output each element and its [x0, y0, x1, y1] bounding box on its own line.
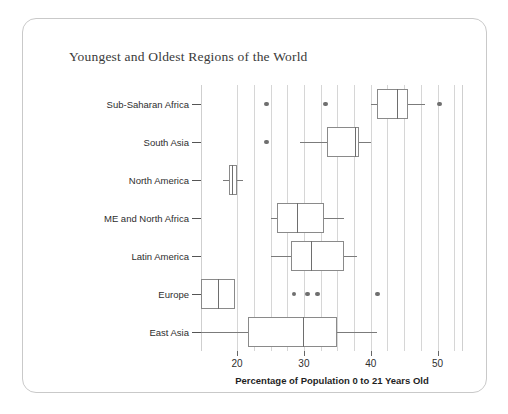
- outlier-point: [264, 140, 269, 145]
- y-axis-tick: [192, 180, 201, 181]
- gridline: [237, 85, 238, 351]
- y-axis-label: East Asia: [149, 327, 189, 338]
- outlier-point: [292, 292, 297, 297]
- x-axis-tick-label: 40: [365, 358, 376, 369]
- plot-right-border: [462, 85, 463, 351]
- outlier-point: [315, 292, 320, 297]
- median-line: [311, 241, 312, 271]
- box: [327, 127, 358, 157]
- x-axis-tick-label: 20: [232, 358, 243, 369]
- y-axis-label: Sub-Saharan Africa: [107, 99, 189, 110]
- gridline: [387, 85, 388, 351]
- x-axis-title: Percentage of Population 0 to 21 Years O…: [235, 375, 429, 386]
- x-axis-tick: [438, 351, 439, 356]
- box: [229, 165, 237, 195]
- gridline: [354, 85, 355, 351]
- y-axis-tick: [192, 256, 201, 257]
- median-line: [297, 203, 298, 233]
- median-line: [218, 279, 219, 309]
- x-axis-tick: [304, 351, 305, 356]
- gridline: [421, 85, 422, 351]
- outlier-point: [323, 102, 328, 107]
- gridline: [371, 85, 372, 351]
- y-axis-tick: [192, 294, 201, 295]
- outlier-point: [305, 292, 310, 297]
- y-axis-label: ME and North Africa: [104, 213, 189, 224]
- y-axis-tick: [192, 142, 201, 143]
- gridline: [254, 85, 255, 351]
- box: [377, 89, 407, 119]
- y-axis-label: South Asia: [144, 137, 189, 148]
- x-axis-tick: [371, 351, 372, 356]
- page-title: Youngest and Oldest Regions of the World: [69, 49, 308, 65]
- y-axis-tick: [192, 104, 201, 105]
- x-axis-tick: [237, 351, 238, 356]
- y-axis-label: North America: [129, 175, 189, 186]
- median-line: [303, 317, 304, 347]
- gridline: [404, 85, 405, 351]
- median-line: [355, 127, 356, 157]
- y-axis-label: Europe: [158, 289, 189, 300]
- median-line: [232, 165, 233, 195]
- gridline: [438, 85, 439, 351]
- box: [291, 241, 344, 271]
- y-axis-tick: [192, 332, 201, 333]
- x-axis-tick-label: 50: [432, 358, 443, 369]
- outlier-point: [264, 102, 269, 107]
- outlier-point: [437, 102, 442, 107]
- y-axis-label: Latin America: [131, 251, 189, 262]
- chart-card: Youngest and Oldest Regions of the World…: [22, 18, 487, 393]
- x-axis-tick-label: 30: [298, 358, 309, 369]
- box: [248, 317, 338, 347]
- median-line: [397, 89, 398, 119]
- box: [277, 203, 324, 233]
- boxplot-plot-area: Sub-Saharan AfricaSouth AsiaNorth Americ…: [201, 85, 463, 351]
- outlier-point: [375, 292, 380, 297]
- y-axis-tick: [192, 218, 201, 219]
- y-axis-line: [201, 85, 202, 351]
- gridline: [454, 85, 455, 351]
